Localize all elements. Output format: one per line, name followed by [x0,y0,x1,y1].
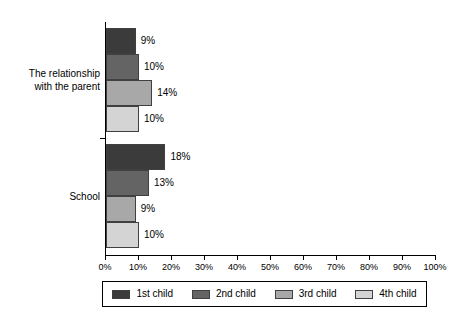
bar [106,222,139,248]
bar [106,144,165,170]
bar-value-label: 10% [144,54,164,80]
legend-item[interactable]: 3rd child [275,288,337,300]
bar [106,196,136,222]
value-axis-tick [270,255,271,260]
legend-swatch-icon [355,290,373,299]
legend-swatch-icon [192,290,210,299]
value-axis-tick-label: 100% [415,262,451,273]
legend-item-label: 2nd child [216,288,256,300]
chart-legend: 1st child2nd child3rd child4th child [102,281,427,307]
value-axis-tick [138,255,139,260]
legend-items: 1st child2nd child3rd child4th child [103,288,426,300]
category-axis-label: School [0,190,100,203]
bar [106,170,149,196]
value-axis-tick [435,255,436,260]
bar [106,54,139,80]
legend-item-label: 3rd child [299,288,337,300]
bar-value-label: 18% [170,144,190,170]
value-axis-tick [336,255,337,260]
value-axis-tick [204,255,205,260]
value-axis-tick [303,255,304,260]
plot-area: 0%10%20%30%40%50%60%70%80%90%100% 9%10%1… [105,22,435,255]
bar-value-label: 9% [141,196,155,222]
bar-value-label: 14% [157,80,177,106]
legend-swatch-icon [275,290,293,299]
bar-value-label: 10% [144,106,164,132]
category-axis-label-line: with the parent [0,80,100,93]
category-axis-label-line: The relationship [0,67,100,80]
legend-swatch-icon [112,290,130,299]
category-axis-label: The relationshipwith the parent [0,67,100,93]
value-axis-tick [402,255,403,260]
bar-value-label: 9% [141,28,155,54]
legend-item-label: 4th child [379,288,416,300]
bar [106,106,139,132]
legend-item[interactable]: 4th child [355,288,416,300]
bar-value-label: 13% [154,170,174,196]
legend-item-label: 1st child [136,288,173,300]
value-axis-tick [237,255,238,260]
bar [106,80,152,106]
category-axis-label-line: School [0,190,100,203]
value-axis-tick [105,255,106,260]
legend-item[interactable]: 1st child [112,288,173,300]
bar [106,28,136,54]
bar-value-label: 10% [144,222,164,248]
value-axis-tick [369,255,370,260]
category-axis-tick [100,138,105,139]
value-axis-tick [171,255,172,260]
category-axis-labels: The relationshipwith the parentSchool [0,22,100,255]
legend-item[interactable]: 2nd child [192,288,256,300]
